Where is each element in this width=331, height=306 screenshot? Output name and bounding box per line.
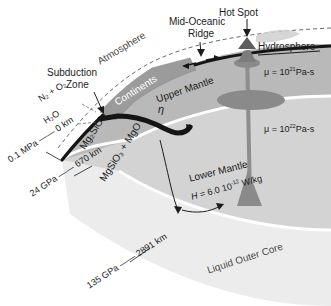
heat-exponent: -12 bbox=[230, 178, 239, 186]
viscosity-lower-equals: = bbox=[272, 124, 277, 134]
volatiles-leader-n2o2 bbox=[82, 104, 96, 112]
label-mid-ocean-ridge-line2: Ridge bbox=[188, 29, 214, 39]
viscosity-upper-base: 10 bbox=[279, 67, 289, 77]
label-hydrosphere: Hydrosphere bbox=[258, 42, 315, 52]
viscosity-lower-base: 10 bbox=[279, 124, 289, 134]
viscosity-lower-unit: Pa-s bbox=[296, 124, 315, 134]
viscosity-lower-symbol: μ bbox=[264, 124, 269, 134]
mid-ocean-ridge-arrow-head bbox=[197, 49, 205, 57]
label-mid-ocean-ridge-line1: Mid-Oceanic bbox=[169, 17, 225, 27]
label-eta-symbol: η bbox=[158, 104, 164, 115]
viscosity-upper-unit: Pa-s bbox=[296, 67, 315, 77]
plume-pond-670km bbox=[217, 90, 285, 110]
viscosity-lower-mantle-annotation: μ = 1022Pa-s bbox=[264, 124, 314, 134]
hot-spot-volcano bbox=[238, 37, 256, 49]
label-subduction-zone-line2: Zone bbox=[66, 80, 89, 90]
viscosity-upper-mantle-annotation: μ = 1021Pa-s bbox=[264, 67, 314, 77]
viscosity-upper-symbol: μ bbox=[264, 67, 269, 77]
heat-equals: = bbox=[199, 188, 207, 199]
earth-cross-section-figure: Hot Spot Mid-Oceanic Ridge Hydrosphere A… bbox=[0, 0, 331, 306]
heat-symbol: H bbox=[190, 190, 199, 201]
viscosity-upper-equals: = bbox=[272, 67, 277, 77]
label-subduction-zone-line1: Subduction bbox=[47, 68, 97, 78]
leader-surface bbox=[46, 152, 60, 160]
